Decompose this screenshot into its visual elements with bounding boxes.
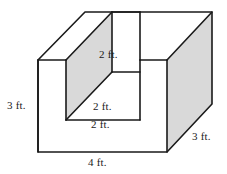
dimension-label-width-bottom: 4 ft.: [88, 157, 107, 168]
notch-back-wall: [112, 12, 140, 72]
dimension-label-height-left: 3 ft.: [7, 100, 26, 111]
prism-drawing: [0, 0, 227, 174]
top-face-right-band: [140, 60, 167, 72]
dimension-label-notch-vertical: 2 ft.: [99, 49, 118, 60]
dimension-label-notch-front: 2 ft.: [91, 119, 110, 130]
geometry-figure: 3 ft. 2 ft. 2 ft. 2 ft. 4 ft. 3 ft.: [0, 0, 227, 174]
dimension-label-notch-diagonal: 2 ft.: [93, 101, 112, 112]
dimension-label-depth-right: 3 ft.: [192, 131, 211, 142]
